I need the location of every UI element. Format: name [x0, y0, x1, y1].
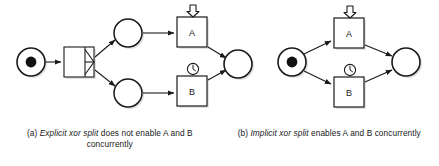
figure-petri-net-xor-split: A B — [0, 0, 439, 166]
caption-b-prefix: (b) — [238, 128, 251, 138]
arc-start-to-task-a — [304, 41, 331, 54]
caption-a-emphasis: Explicit xor split — [40, 128, 99, 138]
arc-split-to-upper-place — [95, 40, 115, 57]
down-arrow-icon — [187, 5, 199, 17]
diagram-a-task-a: A — [177, 5, 209, 49]
arc-start-to-task-b — [304, 71, 331, 84]
caption-a: (a) Explicit xor split does not enable A… — [0, 128, 220, 151]
arc-task-b-to-end-place — [365, 70, 392, 82]
caption-b-emphasis: Implicit xor split — [250, 128, 308, 138]
diagram-b-task-b: B — [334, 64, 366, 109]
down-arrow-icon — [344, 6, 356, 18]
place-circle — [114, 79, 142, 107]
caption-b: (b) Implicit xor split enables A and B c… — [220, 128, 439, 151]
task-b-label: B — [346, 88, 352, 98]
clock-icon — [187, 63, 198, 74]
arc-split-to-lower-place — [95, 70, 115, 86]
arc-task-a-to-end-place — [365, 45, 392, 56]
place-circle — [392, 48, 420, 76]
token-dot — [26, 57, 37, 68]
diagram-a-end-place — [224, 50, 254, 80]
place-circle — [114, 19, 142, 47]
diagram-a-lower-place — [114, 79, 144, 109]
diagram-b-implicit-xor-split: A B — [278, 6, 422, 109]
task-b-label: B — [189, 87, 195, 97]
diagram-b-end-place — [392, 48, 422, 78]
place-circle — [224, 50, 252, 78]
clock-icon — [344, 64, 355, 75]
diagram-a-upper-place — [114, 19, 144, 49]
token-dot — [287, 57, 298, 68]
task-a-label: A — [189, 28, 195, 38]
diagram-area: A B — [0, 0, 439, 128]
diagram-a-start-place — [17, 48, 47, 78]
diagram-a-xor-split-transition — [64, 47, 96, 79]
diagram-b-task-a: A — [334, 6, 366, 50]
caption-a-prefix: (a) — [27, 128, 40, 138]
caption-row: (a) Explicit xor split does not enable A… — [0, 128, 439, 151]
caption-b-suffix: enables A and B concurrently — [309, 128, 421, 138]
arc-task-a-to-end-place — [208, 47, 226, 58]
arc-task-b-to-end-place — [208, 70, 226, 80]
caption-a-suffix: does not enable A and B concurrently — [87, 128, 193, 149]
task-a-label: A — [346, 29, 352, 39]
diagram-a-explicit-xor-split: A B — [17, 5, 254, 109]
diagram-b-start-place — [278, 48, 308, 78]
diagram-a-task-b: B — [177, 63, 209, 108]
